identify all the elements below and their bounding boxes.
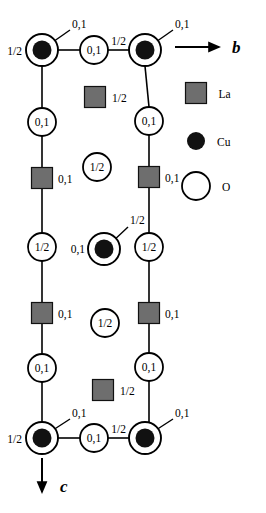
atom-o-l-3: 0,1 bbox=[28, 354, 56, 382]
atom-cu-tl bbox=[26, 34, 58, 66]
lbl-cu-bl-leader: 0,1 bbox=[72, 407, 87, 420]
lanthanum-square bbox=[32, 168, 53, 189]
lbl-cu-br-leader: 0,1 bbox=[175, 407, 190, 420]
copper-dot bbox=[136, 41, 155, 60]
atom-la-l-2 bbox=[32, 303, 53, 324]
lbl-cu-tr-left: 1/2 bbox=[111, 35, 126, 47]
c-axis-label: c bbox=[60, 477, 68, 496]
lbl-cu-tl-left: 1/2 bbox=[7, 45, 22, 57]
lbl-la-c-1: 1/2 bbox=[112, 92, 127, 104]
legend-item-cu: Cu bbox=[187, 132, 231, 150]
lbl-la-r-2: 0,1 bbox=[165, 308, 180, 321]
lanthanum-square bbox=[139, 303, 160, 324]
lanthanum-square bbox=[139, 167, 160, 188]
oxygen-height-label: 1/2 bbox=[98, 317, 113, 329]
atom-cu-tr bbox=[129, 34, 161, 66]
lbl-cu-center-leader: 1/2 bbox=[130, 214, 145, 226]
atom-o-top-mid: 0,1 bbox=[80, 36, 108, 64]
oxygen-height-label: 0,1 bbox=[35, 116, 50, 129]
legend-item-la: La bbox=[186, 83, 231, 104]
legend-label-cu: Cu bbox=[217, 136, 231, 148]
atom-o-l-1: 0,1 bbox=[28, 108, 56, 136]
lbl-cu-tr-leader: 0,1 bbox=[175, 18, 190, 31]
b-axis-label: b bbox=[232, 38, 241, 57]
atom-o-c-2: 1/2 bbox=[91, 309, 119, 337]
copper-dot bbox=[95, 240, 114, 259]
atom-cu-center bbox=[88, 233, 120, 265]
lbl-la-l-2: 0,1 bbox=[58, 308, 73, 321]
lanthanum-square bbox=[32, 303, 53, 324]
lbl-la-c-2: 1/2 bbox=[120, 385, 135, 397]
crystal-structure-figure: 0,10,10,11/20,10,11/20,11/21/2 0,11/20,1… bbox=[0, 0, 266, 513]
lbl-cu-bl-left: 1/2 bbox=[7, 433, 22, 445]
atom-o-r-2: 1/2 bbox=[135, 233, 163, 261]
oxygen-height-label: 0,1 bbox=[142, 115, 157, 128]
lbl-cu-tl-leader: 0,1 bbox=[72, 18, 87, 31]
lanthanum-square bbox=[93, 380, 114, 401]
atom-la-r-2 bbox=[139, 303, 160, 324]
oxygen-height-label: 0,1 bbox=[35, 362, 50, 375]
atom-o-r-3: 0,1 bbox=[135, 353, 163, 381]
atom-o-c-1: 1/2 bbox=[83, 153, 111, 181]
oxygen-height-label: 0,1 bbox=[87, 432, 102, 445]
lbl-la-l-1: 0,1 bbox=[58, 173, 73, 186]
atom-la-c-2 bbox=[93, 380, 114, 401]
atom-o-l-2: 1/2 bbox=[28, 233, 56, 261]
bond-line bbox=[145, 66, 149, 107]
atom-cu-bl bbox=[26, 422, 58, 454]
oxygen-height-label: 0,1 bbox=[142, 361, 157, 374]
atom-o-bot-mid: 0,1 bbox=[80, 424, 108, 452]
lbl-la-r-1: 0,1 bbox=[165, 172, 180, 185]
lbl-cu-br-left: 1/2 bbox=[111, 423, 126, 435]
legend-label-la: La bbox=[219, 88, 231, 100]
legend-lanthanum-square bbox=[186, 83, 207, 104]
atom-cu-br bbox=[129, 422, 161, 454]
legend-label-o: O bbox=[222, 181, 230, 193]
oxygen-height-label: 1/2 bbox=[90, 161, 105, 173]
structure-svg: 0,10,10,11/20,10,11/20,11/21/2 0,11/20,1… bbox=[0, 0, 266, 513]
legend-copper-dot bbox=[187, 132, 205, 150]
atom-la-c-1 bbox=[85, 87, 106, 108]
copper-dot bbox=[33, 41, 52, 60]
oxygen-height-label: 1/2 bbox=[142, 241, 157, 253]
atom-la-r-1 bbox=[139, 167, 160, 188]
atom-la-l-1 bbox=[32, 168, 53, 189]
atom-o-r-1: 0,1 bbox=[135, 107, 163, 135]
legend-item-o: O bbox=[182, 172, 230, 200]
copper-dot bbox=[33, 429, 52, 448]
lbl-cu-center-left: 0,1 bbox=[71, 243, 86, 256]
oxygen-height-label: 0,1 bbox=[87, 44, 102, 57]
oxygen-height-label: 1/2 bbox=[35, 241, 50, 253]
legend: LaCuO bbox=[182, 83, 231, 201]
copper-dot bbox=[136, 429, 155, 448]
atoms-layer: 0,10,10,11/20,10,11/20,11/21/2 bbox=[26, 34, 163, 454]
legend-oxygen-circle bbox=[182, 172, 210, 200]
lanthanum-square bbox=[85, 87, 106, 108]
